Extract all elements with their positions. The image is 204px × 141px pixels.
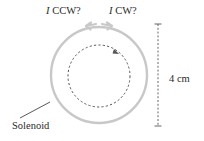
solenoid-label: Solenoid <box>12 120 49 131</box>
cw-text: CW? <box>113 5 137 16</box>
dimension-label: 4 cm <box>169 73 190 84</box>
ccw-current-label: I CCW? <box>46 5 81 16</box>
ccw-text: CCW? <box>50 5 81 16</box>
solenoid-diagram: I CCW? I CW? 4 cm Solenoid <box>0 0 204 141</box>
solenoid-leader-line <box>20 102 50 118</box>
cw-current-label: I CW? <box>109 5 137 16</box>
inner-dashed-loop <box>68 45 130 107</box>
solenoid-circle <box>51 27 147 123</box>
